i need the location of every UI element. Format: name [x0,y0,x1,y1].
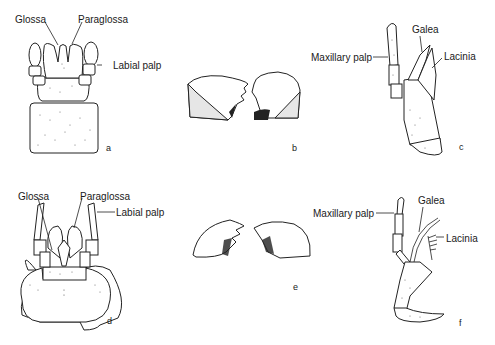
label-labial-palp-d: Labial palp [116,207,164,218]
mentum-plate-d [43,267,86,280]
left-labial-palp-d3 [40,252,50,267]
maxillary-palp-f-seg1 [397,198,404,216]
panel-letter-d: d [107,316,112,326]
right-labial-palp-d3 [80,252,90,267]
panel-a-labium-drawing [29,22,102,153]
maxillary-palp-seg3 [391,84,402,98]
cardo-f-shape [394,308,444,322]
panel-letter-e: e [293,282,298,292]
leader-galea-c [420,36,422,52]
mouthparts-figure: Glossa Paraglossa Labial palp a b Maxill… [0,0,495,345]
label-glossa-d: Glossa [18,191,49,202]
lacinia-f-shape [428,236,432,260]
right-labial-palp-seg2 [83,64,95,75]
left-labial-palp-d1 [34,203,44,240]
panel-letter-b: b [292,143,297,153]
right-labial-palp-seg1 [84,42,98,66]
stipes-f-shape [394,262,432,312]
leader-galea-f [419,207,423,232]
label-lacinia-f: Lacinia [446,233,478,244]
label-glossa-a: Glossa [15,14,46,25]
left-labial-palp-seg3 [33,76,45,85]
panel-letter-f: f [459,318,462,328]
leader-glossa-a [45,22,58,45]
panel-letter-c: c [459,142,464,152]
label-maxillary-palp-c: Maxillary palp [311,52,372,63]
panel-b-mandibles-drawing [188,72,300,120]
leader-paraglossa-d [74,198,82,228]
panel-letter-a: a [106,143,111,153]
panel-f-maxilla-drawing [376,198,444,323]
maxillary-palp-f-seg3 [393,234,402,252]
left-mandible-shape-e [193,220,244,257]
figure-drawings [0,0,495,345]
maxillary-palp-seg2 [389,65,399,85]
right-mandible-molar [254,109,270,120]
galea-f-inner [414,220,440,262]
label-galea-f: Galea [418,195,445,206]
leader-paraglossa-a [72,22,82,44]
postmentum-shape [30,103,98,153]
right-labial-palp-seg3 [79,75,91,85]
label-maxillary-palp-f: Maxillary palp [313,208,374,219]
panel-d-labium-drawing [21,198,122,330]
label-lacinia-c: Lacinia [444,51,476,62]
panel-e-mandibles-drawing [193,220,310,258]
maxillary-palp-seg1 [387,23,398,66]
label-paraglossa-a: Paraglossa [78,14,128,25]
left-labial-palp-seg2 [29,66,41,76]
label-paraglossa-d: Paraglossa [80,191,130,202]
right-labial-palp-d1 [88,203,98,240]
maxillary-palp-f-seg2 [395,214,403,236]
glossa-paraglossa-shape [43,44,82,79]
label-labial-palp-a: Labial palp [113,60,161,71]
panel-c-maxilla-drawing [373,23,442,155]
left-labial-palp-seg1 [29,43,41,67]
label-galea-c: Galea [412,24,439,35]
